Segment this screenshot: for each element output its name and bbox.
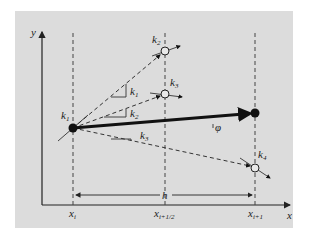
label-k3-point: k3	[170, 76, 179, 90]
vertical-guides	[73, 33, 255, 205]
phi-label: φ	[215, 121, 221, 133]
label-k4-point: k4	[258, 148, 267, 162]
point-k4	[251, 164, 259, 172]
axes	[42, 32, 290, 205]
end-point	[251, 109, 260, 118]
runge-kutta-diagram: y x h φ xi xi+1/2 xi+1 k1 k1 k2 k3 k2 k3…	[0, 0, 327, 246]
slope-triangles	[104, 84, 213, 141]
label-k3-triangle: k3	[140, 129, 149, 143]
point-k3	[161, 90, 169, 98]
h-label: h	[162, 189, 168, 201]
tick-xhalf: xi+1/2	[153, 207, 175, 221]
label-k2-triangle: k2	[130, 107, 139, 121]
ray-k3	[73, 128, 250, 166]
start-point	[69, 124, 78, 133]
tick-xnext: xi+1	[247, 207, 263, 221]
x-axis-label: x	[286, 209, 292, 221]
label-k2-point: k2	[152, 33, 161, 47]
label-k1-point: k1	[61, 109, 69, 123]
phi-arrow	[73, 114, 250, 129]
point-k2	[161, 47, 169, 55]
label-k1-triangle: k1	[130, 85, 138, 99]
y-axis-label: y	[30, 26, 36, 38]
slope-rays	[73, 55, 250, 166]
tick-xi: xi	[68, 207, 76, 221]
